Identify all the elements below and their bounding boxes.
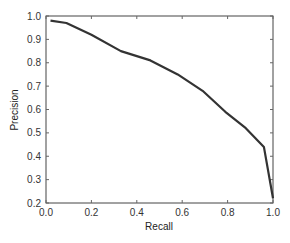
plot-frame (46, 16, 273, 203)
y-tick-label: 0.3 (27, 174, 41, 185)
plot-border (46, 16, 273, 203)
x-tick-label: 0.2 (84, 207, 98, 218)
y-tick-label: 1.0 (27, 11, 41, 22)
y-tick-label: 0.7 (27, 81, 41, 92)
x-axis-label: Recall (145, 221, 173, 232)
y-tick-label: 0.6 (27, 104, 41, 115)
y-tick-label: 0.8 (27, 57, 41, 68)
y-tick-label: 0.2 (27, 198, 41, 209)
y-axis-ticks: 0.20.30.40.50.60.70.80.91.0 (27, 11, 273, 209)
y-tick-label: 0.4 (27, 151, 41, 162)
precision-recall-curve (51, 21, 274, 199)
x-tick-label: 0.0 (39, 207, 53, 218)
y-tick-label: 0.5 (27, 127, 41, 138)
x-tick-label: 1.0 (266, 207, 280, 218)
x-axis-ticks: 0.00.20.40.60.81.0 (39, 16, 280, 218)
y-tick-label: 0.9 (27, 34, 41, 45)
precision-recall-chart: 0.00.20.40.60.81.0 0.20.30.40.50.60.70.8… (0, 0, 290, 243)
y-axis-label: Precision (9, 89, 20, 130)
x-tick-label: 0.6 (175, 207, 189, 218)
x-tick-label: 0.4 (130, 207, 144, 218)
x-tick-label: 0.8 (221, 207, 235, 218)
